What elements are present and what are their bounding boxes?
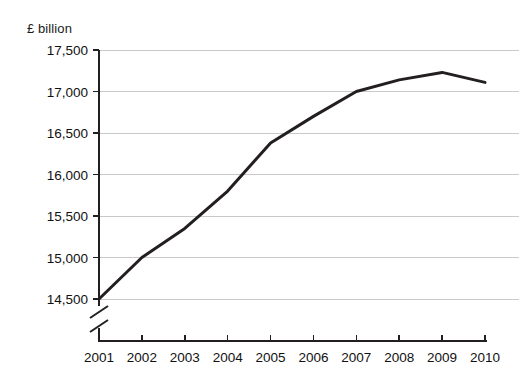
- plot-area: [0, 0, 524, 389]
- axes: [98, 50, 487, 341]
- axis-break-slash: [90, 306, 108, 318]
- series-line: [99, 72, 485, 299]
- gridlines: [99, 50, 519, 299]
- axis-ticks: [93, 50, 485, 341]
- data-series: [99, 72, 485, 299]
- line-chart: £ billion 17,50017,00016,50016,00015,500…: [0, 0, 524, 389]
